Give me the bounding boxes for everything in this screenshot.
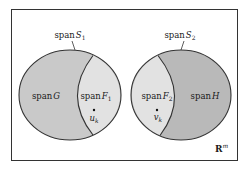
label-span-s1: spanS1 (54, 30, 85, 41)
label-span-h: spanH (191, 91, 220, 101)
label-span-f1: spanF1 (80, 91, 111, 102)
point-v-k (156, 109, 158, 111)
label-span-g: spanG (32, 91, 60, 101)
point-u-k (93, 109, 95, 111)
label-span-f2: spanF2 (141, 91, 172, 102)
label-span-s2: spanS2 (164, 30, 195, 41)
venn-diagram: spanS1 spanS2 spanG spanF1 spanF2 spanH … (0, 0, 252, 171)
